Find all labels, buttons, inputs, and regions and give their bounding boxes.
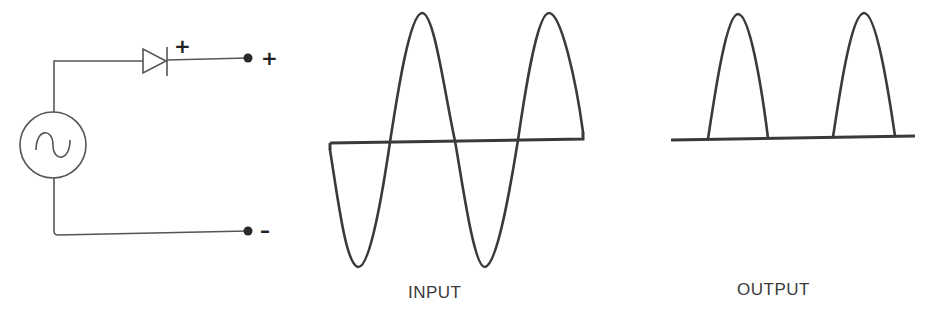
ac-source-icon — [20, 112, 86, 178]
rectifier-diagram — [0, 0, 929, 319]
terminal-negative-label: – — [260, 220, 270, 240]
wire-top-right — [167, 58, 248, 60]
diode-icon — [143, 47, 167, 76]
input-label: INPUT — [408, 284, 462, 301]
output-pulse-2 — [833, 13, 895, 137]
input-waveform — [330, 13, 583, 267]
terminal-positive-label: + — [261, 48, 278, 68]
terminal-positive-dot — [244, 54, 253, 63]
input-axis — [330, 132, 583, 143]
circuit — [20, 47, 253, 236]
terminal-negative-dot — [244, 227, 253, 236]
diode-polarity-plus: + — [174, 36, 191, 56]
wire-bottom — [54, 178, 248, 235]
output-waveform — [671, 13, 915, 140]
output-pulse-1 — [708, 14, 768, 139]
output-label: OUTPUT — [737, 281, 810, 298]
wire-top-left — [54, 61, 143, 112]
